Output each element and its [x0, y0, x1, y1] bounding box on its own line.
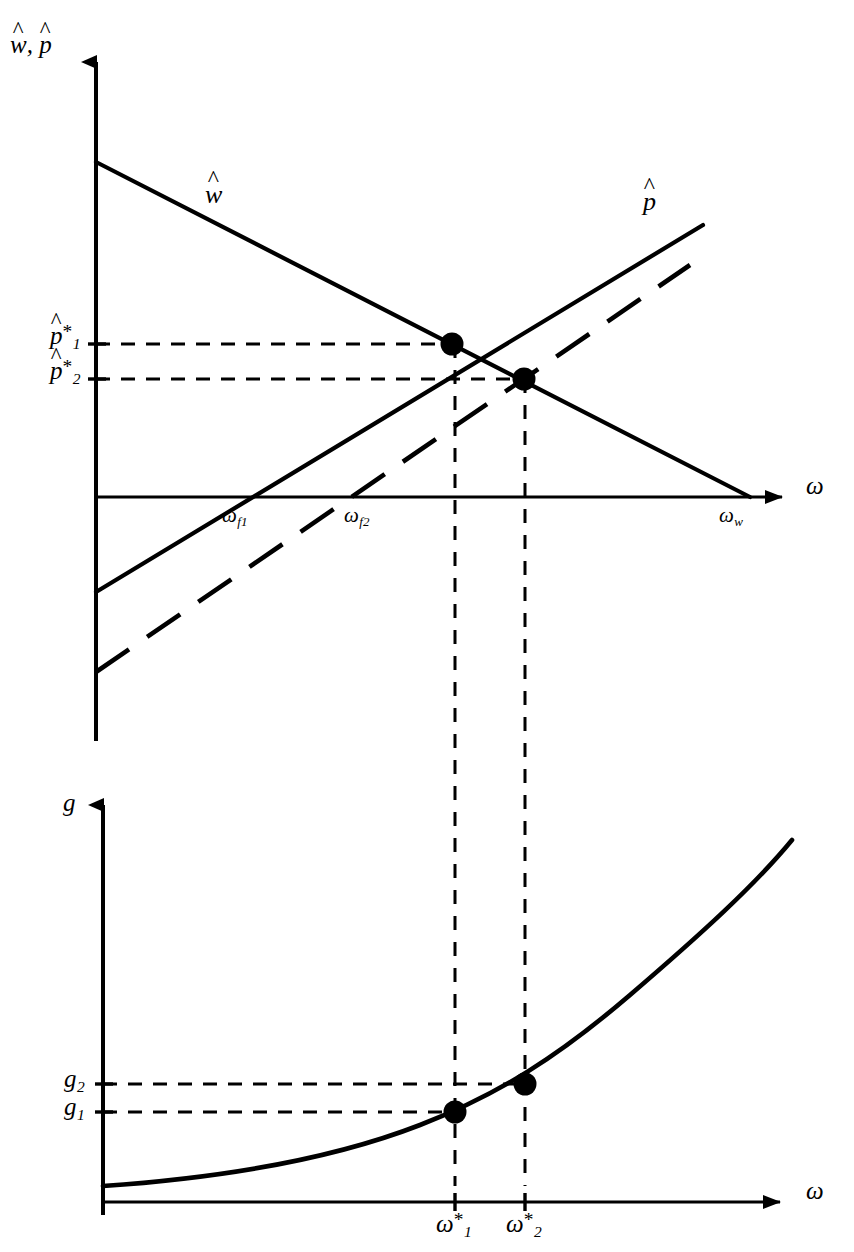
omega-star-2-star: * [524, 1209, 534, 1230]
omega-w-sub: w [734, 514, 743, 529]
bottom-y-axis-label: g [63, 790, 76, 815]
omega-star-2-sub: 2 [533, 1223, 541, 1240]
bottom-panel-group [95, 805, 792, 1215]
g-1-sub: 1 [77, 1106, 85, 1123]
p-hat-curve-label: ^p [643, 189, 656, 215]
p-star-1-star: * [63, 321, 73, 342]
g-2-sub: 2 [77, 1078, 85, 1095]
w-hat-curve-label: ^w [205, 182, 222, 208]
omega-f2-base: ω [344, 503, 359, 527]
omega-star-1-base: ω [436, 1210, 454, 1237]
omega-f1-sub: f1 [237, 514, 248, 529]
p-star-2-star: * [63, 356, 73, 377]
g-1-base: g [64, 1093, 77, 1120]
omega-f2-label: ωf2 [344, 505, 369, 528]
g-curve [103, 840, 792, 1186]
growth-dot-2 [514, 1073, 537, 1096]
top-panel-group [88, 62, 782, 741]
g-2-base: g [64, 1065, 77, 1092]
omega-star-1-label: ω*1 [436, 1210, 472, 1239]
g-2-label: g2 [64, 1066, 85, 1094]
omega-star-2-label: ω*2 [506, 1210, 542, 1239]
omega-star-2-base: ω [506, 1210, 524, 1237]
bottom-x-axis-label: ω [806, 1178, 824, 1203]
omega-f2-sub: f2 [359, 514, 370, 529]
omega-star-1-sub: 1 [463, 1223, 471, 1240]
p-star-2-label: ^p*2 [50, 357, 81, 386]
diagram-canvas [0, 0, 854, 1252]
growth-dot-1 [444, 1101, 467, 1124]
top-x-axis-label: ω [806, 473, 824, 498]
p-hat-curve-solid [96, 225, 703, 592]
omega-w-label: ωw [719, 505, 743, 528]
omega-f1-base: ω [222, 503, 237, 527]
p-hat-curve-dashed [96, 265, 690, 672]
panel-connectors [455, 344, 525, 1186]
omega-f1-label: ωf1 [222, 505, 247, 528]
top-y-axis-label-sep: , [27, 31, 40, 58]
p-star-1-sub: 1 [72, 335, 80, 352]
omega-w-base: ω [719, 503, 734, 527]
g-1-label: g1 [64, 1094, 85, 1122]
p-star-2-sub: 2 [72, 370, 80, 387]
equilibrium-dot-1 [441, 333, 464, 356]
top-y-axis-label: ^w, ^p [10, 32, 52, 57]
omega-star-1-star: * [454, 1209, 464, 1230]
figure-root: ^w, ^p ω ^w ^p ^p*1 ^p*2 ωf1 ωf2 ωw g ω … [0, 0, 854, 1252]
